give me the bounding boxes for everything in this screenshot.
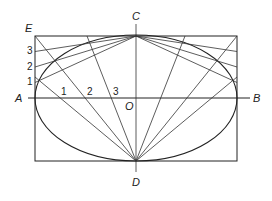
- ellipse-construction-diagram: A B C D E O 1 2 3 1 2 3: [0, 0, 272, 201]
- axis-division-3: 3: [113, 86, 119, 97]
- label-A: A: [14, 92, 22, 104]
- edge-division-3: 3: [27, 45, 33, 56]
- label-E: E: [25, 22, 33, 34]
- edge-division-1: 1: [27, 76, 33, 87]
- label-O: O: [125, 100, 134, 112]
- edge-division-2: 2: [27, 61, 33, 72]
- label-C: C: [132, 10, 140, 22]
- label-B: B: [253, 92, 260, 104]
- label-D: D: [132, 176, 140, 188]
- axis-division-2: 2: [87, 86, 93, 97]
- axis-division-1: 1: [61, 86, 67, 97]
